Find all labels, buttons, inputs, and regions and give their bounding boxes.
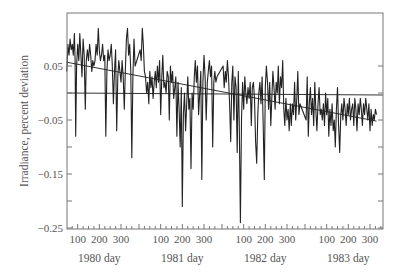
year-group-label: 1982 day [244, 252, 287, 265]
x-tick-label: 200 [257, 233, 274, 245]
year-group-label: 1981 day [161, 252, 204, 265]
y-tick-label: 0.05 [44, 60, 64, 72]
x-tick-label: 100 [152, 233, 169, 245]
x-tick-label: 300 [279, 233, 296, 245]
x-tick-label: 100 [235, 233, 252, 245]
year-group-label: 1983 day [327, 252, 370, 265]
y-tick-label: −0.15 [38, 168, 64, 180]
x-tick-label: 300 [362, 233, 379, 245]
x-tick-label: 300 [196, 233, 213, 245]
y-tick-label: −0.05 [38, 114, 64, 126]
x-tick-label: 300 [113, 233, 130, 245]
x-tick-label: 100 [318, 233, 335, 245]
x-tick-label: 200 [340, 233, 357, 245]
y-axis-ticks: 0.05−0.05−0.15−0.25 [38, 60, 383, 234]
irradiance-series-line [67, 28, 377, 222]
plot-area [67, 28, 383, 222]
x-tick-label: 200 [174, 233, 191, 245]
zero-reference-line [67, 93, 383, 95]
y-tick-label: −0.25 [38, 222, 64, 234]
y-axis-title: Irradiance, percent deviation [18, 55, 31, 187]
irradiance-chart: Irradiance, percent deviation 0.05−0.05−… [0, 0, 403, 273]
y-axis-label: Irradiance, percent deviation [18, 55, 31, 187]
x-tick-label: 100 [69, 233, 86, 245]
x-axis-ticks: 1002003001980 day1002003001981 day100200… [69, 224, 380, 265]
x-tick-label: 200 [91, 233, 108, 245]
year-group-label: 1980 day [78, 252, 121, 265]
